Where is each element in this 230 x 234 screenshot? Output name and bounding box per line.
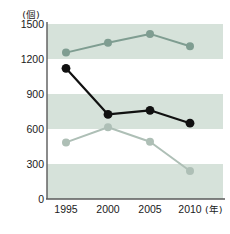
y-tick-1500: 1500 (21, 18, 45, 30)
y-tick-900: 900 (26, 88, 44, 100)
y-axis-tick-labels: 1500 1200 900 600 300 0 (21, 18, 45, 205)
data-point (104, 123, 112, 131)
x-axis-unit-label: (年) (205, 204, 222, 215)
data-point (104, 110, 113, 119)
x-tick-1995: 1995 (54, 203, 78, 215)
data-point (62, 64, 71, 73)
data-point (186, 119, 195, 128)
data-point (104, 39, 112, 47)
chart-canvas: (個) 1500 1200 900 600 300 0 1995 2000 20… (0, 0, 230, 234)
y-tick-0: 0 (38, 193, 44, 205)
line-chart: (個) 1500 1200 900 600 300 0 1995 2000 20… (0, 0, 230, 234)
data-point (186, 42, 194, 50)
x-tick-2000: 2000 (96, 203, 120, 215)
data-point (62, 138, 70, 146)
data-point (146, 106, 155, 115)
x-tick-2005: 2005 (138, 203, 162, 215)
band-1200-1500 (47, 24, 223, 59)
x-tick-2010: 2010 (178, 203, 202, 215)
y-tick-300: 300 (26, 158, 44, 170)
data-point (186, 167, 194, 175)
data-point (146, 30, 154, 38)
data-point (62, 49, 70, 57)
y-tick-600: 600 (26, 123, 44, 135)
band-0-300 (47, 164, 223, 199)
x-axis-tick-labels: 1995 2000 2005 2010 (年) (54, 203, 222, 215)
data-point (146, 138, 154, 146)
y-tick-1200: 1200 (21, 53, 45, 65)
